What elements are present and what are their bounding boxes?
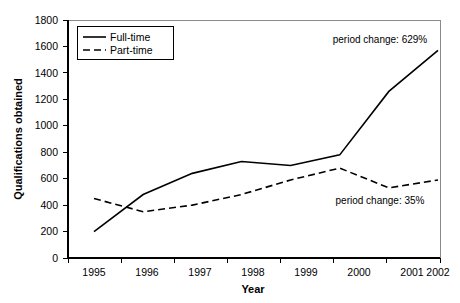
y-tick-label: 1200 [35, 93, 59, 105]
y-tick-label: 1000 [35, 119, 59, 131]
chart-legend: Full-time Part-time [77, 26, 173, 59]
y-axis-tick-labels: 0 200 400 600 800 1000 1200 1400 1600 18… [35, 14, 59, 264]
x-axis-ticks [68, 258, 440, 263]
chart-container: 0 200 400 600 800 1000 1200 1400 1600 18… [0, 0, 460, 303]
y-tick-label: 200 [40, 225, 58, 237]
x-tick-label: 1998 [241, 266, 265, 278]
x-tick-label: 1999 [294, 266, 318, 278]
y-tick-label: 0 [52, 252, 58, 264]
annotation-full-time-period-change: period change: 629% [333, 34, 428, 45]
x-tick-label: 2001 [400, 266, 424, 278]
y-axis-title: Qualifications obtained [12, 78, 24, 200]
y-axis-ticks [63, 20, 68, 258]
y-tick-label: 1400 [35, 67, 59, 79]
x-tick-label: 1997 [188, 266, 212, 278]
y-tick-label: 1800 [35, 14, 59, 26]
x-tick-label: 1996 [135, 266, 159, 278]
x-axis-title: Year [241, 283, 265, 295]
y-tick-label: 400 [40, 199, 58, 211]
y-tick-label: 600 [40, 172, 58, 184]
x-tick-label: 1995 [82, 266, 106, 278]
annotation-part-time-period-change: period change: 35% [336, 195, 425, 206]
x-tick-label: 2000 [347, 266, 371, 278]
x-axis-tick-labels: 1995 1996 1997 1998 1999 2000 2001 2002 [82, 266, 450, 278]
line-chart: 0 200 400 600 800 1000 1200 1400 1600 18… [0, 0, 460, 303]
y-tick-label: 800 [40, 146, 58, 158]
legend-label-full-time: Full-time [110, 31, 150, 43]
legend-label-part-time: Part-time [110, 44, 153, 56]
y-tick-label: 1600 [35, 40, 59, 52]
x-tick-label: 2002 [426, 266, 450, 278]
